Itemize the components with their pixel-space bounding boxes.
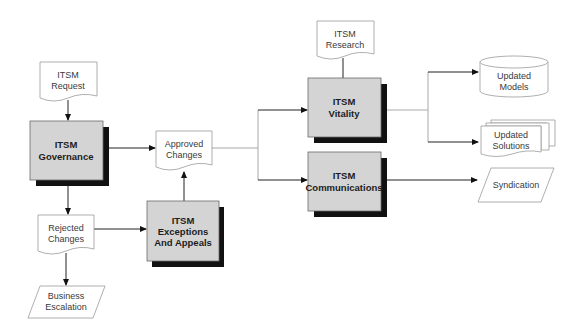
node-label-line: Research	[326, 40, 365, 50]
node-itsm-vitality: ITSM Vitality	[308, 78, 387, 143]
node-label-line: Syndication	[493, 180, 540, 190]
node-label-line: Updated	[494, 130, 528, 140]
node-syndication: Syndication	[478, 168, 554, 202]
node-updated-solutions: Updated Solutions	[481, 120, 555, 157]
node-label-line: Changes	[166, 150, 203, 160]
node-label-line: Exceptions	[158, 226, 209, 237]
node-rejected-changes: Rejected Changes	[38, 215, 94, 254]
node-label-line: ITSM	[172, 215, 195, 226]
node-label-line: ITSM	[57, 70, 79, 80]
node-label-line: ITSM	[334, 29, 356, 39]
cylinder-top	[480, 56, 548, 68]
node-label-line: Approved	[165, 139, 204, 149]
node-label-line: Models	[499, 82, 529, 92]
node-label-line: Escalation	[45, 302, 87, 312]
node-itsm-communications: ITSM Communications	[305, 152, 387, 217]
itsm-flow-diagram: ITSM Request ITSM Governance Approved Ch…	[0, 0, 586, 333]
node-itsm-governance: ITSM Governance	[30, 121, 109, 186]
node-itsm-request: ITSM Request	[40, 62, 97, 101]
node-itsm-research: ITSM Research	[317, 21, 374, 59]
node-updated-models: Updated Models	[480, 56, 548, 97]
node-label-line: Business	[48, 291, 85, 301]
connectors	[66, 58, 478, 285]
node-label-line: Request	[51, 81, 85, 91]
node-label-line: ITSM	[333, 96, 356, 107]
node-label-line: Updated	[497, 71, 531, 81]
node-label-line: Communications	[305, 182, 382, 193]
node-approved-changes: Approved Changes	[156, 131, 212, 170]
node-label-line: Rejected	[48, 223, 84, 233]
node-label-line: Changes	[48, 234, 85, 244]
node-label-line: ITSM	[55, 139, 78, 150]
node-label-line: Solutions	[492, 141, 530, 151]
node-label-line: Vitality	[329, 108, 361, 119]
node-itsm-exceptions-appeals: ITSM Exceptions And Appeals	[147, 201, 224, 267]
node-label-line: ITSM	[333, 170, 356, 181]
node-business-escalation: Business Escalation	[28, 286, 105, 318]
node-label-line: Governance	[39, 151, 94, 162]
node-label-line: And Appeals	[154, 237, 212, 248]
